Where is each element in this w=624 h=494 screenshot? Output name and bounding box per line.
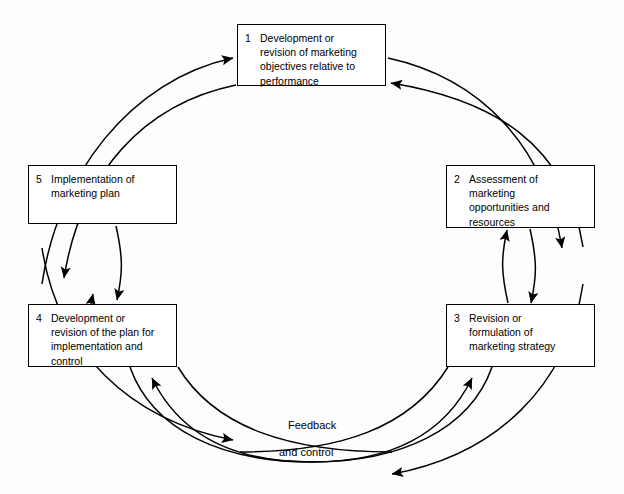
node-number-5: 5 (36, 172, 51, 186)
node-number-1: 1 (245, 31, 260, 45)
node-box-5[interactable]: 5 Implementation of marketing plan (28, 165, 177, 224)
node-number-3: 3 (454, 311, 469, 325)
node-label-4: Development or revision of the plan for … (51, 311, 154, 368)
diagram-canvas: 1 Development or revision of marketing o… (0, 0, 624, 494)
node-number-2: 2 (454, 172, 469, 186)
feedback-loop-label: Feedback (288, 419, 336, 431)
node-box-4[interactable]: 4 Development or revision of the plan fo… (28, 304, 177, 367)
node-box-2[interactable]: 2 Assessment of marketing opportunities … (446, 165, 595, 228)
node-number-4: 4 (36, 311, 51, 325)
node-label-1: Development or revision of marketing obj… (260, 31, 357, 88)
node-box-3[interactable]: 3 Revision or formulation of marketing s… (446, 304, 595, 367)
node-box-1[interactable]: 1 Development or revision of marketing o… (237, 24, 386, 86)
node-label-3: Revision or formulation of marketing str… (469, 311, 555, 354)
and-control-loop-label: and control (279, 446, 333, 458)
node-label-5: Implementation of marketing plan (51, 172, 134, 200)
node-label-2: Assessment of marketing opportunities an… (469, 172, 550, 229)
